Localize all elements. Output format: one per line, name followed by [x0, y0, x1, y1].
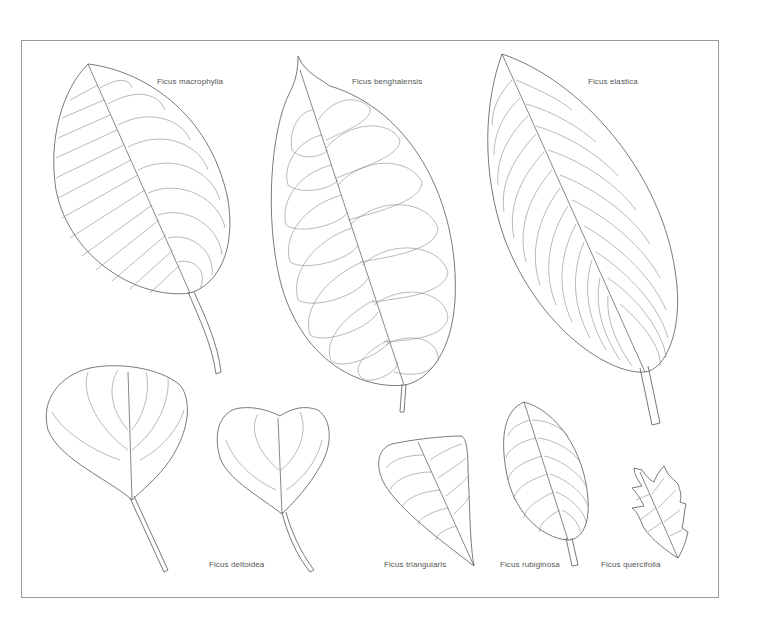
leaf-illustrations	[0, 0, 760, 632]
label-ficus-deltoidea: Ficus deltoidea	[209, 560, 264, 569]
leaf-benghalensis-illustration	[271, 56, 455, 412]
label-ficus-triangularis: Ficus triangularis	[384, 560, 446, 569]
leaf-deltoidea-large-illustration	[46, 366, 187, 572]
label-ficus-benghalensis: Ficus benghalensis	[352, 77, 422, 86]
label-ficus-quercifolia: Ficus quercifolia	[601, 560, 661, 569]
label-ficus-elastica: Ficus elastica	[588, 77, 638, 86]
label-ficus-macrophylla: Ficus macrophylla	[157, 77, 223, 86]
leaf-elastica-illustration	[488, 54, 678, 425]
label-ficus-rubiginosa: Ficus rubiginosa	[500, 560, 560, 569]
leaf-deltoidea-small-illustration	[217, 408, 329, 572]
leaf-triangularis-illustration	[379, 436, 474, 566]
leaf-macrophylla-illustration	[54, 64, 230, 374]
leaf-rubiginosa-illustration	[504, 402, 589, 566]
leaf-quercifolia-illustration	[632, 466, 688, 558]
